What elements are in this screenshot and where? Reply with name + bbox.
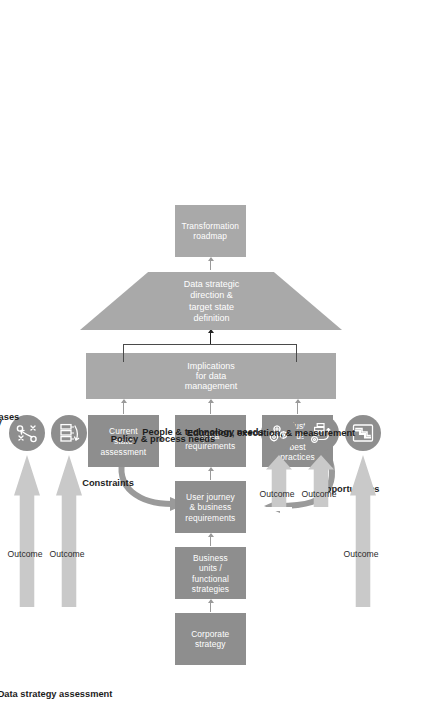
outcome-arrow-label-5: Outcome bbox=[344, 549, 379, 559]
arrow-tail bbox=[308, 507, 334, 511]
outcome-title-education: Education, execution, & measurement bbox=[187, 428, 355, 438]
outcome-arrow-label-4: Outcome bbox=[302, 489, 337, 499]
strategy-playbook-icon bbox=[15, 421, 39, 445]
outcome-arrow-label-3: Outcome bbox=[260, 489, 295, 499]
diagram-canvas: Data strategy assessment Constraints Opp… bbox=[0, 0, 427, 707]
icon-circle-use-cases[interactable] bbox=[51, 415, 87, 451]
arrow-tail bbox=[350, 607, 376, 611]
outcome-title-use-cases: Prioritized use cases bbox=[0, 412, 19, 422]
outcome-arrow-label-2: Outcome bbox=[50, 549, 85, 559]
arrow-tail bbox=[266, 507, 292, 511]
prioritized-bars-icon bbox=[57, 421, 81, 445]
arrow-tail bbox=[56, 607, 82, 611]
outcome-arrow-label-1: Outcome bbox=[8, 549, 43, 559]
arrow-tail bbox=[14, 607, 40, 611]
